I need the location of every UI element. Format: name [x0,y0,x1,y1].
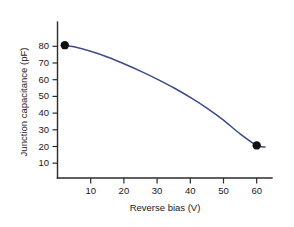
y-axis-title: Junction capacitance (pF) [18,48,29,157]
x-tick-label-60: 60 [251,185,262,196]
x-axis-tick-labels: 10 20 30 40 50 60 [85,185,262,196]
y-tick-label-10: 10 [38,157,49,168]
y-tick-label-80: 80 [38,40,49,51]
y-tick-label-20: 20 [38,141,49,152]
chart-axes [58,22,273,178]
x-axis-ticks [91,178,257,184]
x-tick-label-10: 10 [85,185,96,196]
data-series-line [65,45,265,147]
x-tick-label-50: 50 [218,185,229,196]
chart-plot-svg: 80 70 60 50 40 30 20 10 10 20 30 40 50 6… [0,0,294,227]
y-tick-label-40: 40 [38,107,49,118]
x-axis-title: Reverse bias (V) [130,202,201,213]
y-tick-label-60: 60 [38,74,49,85]
data-point-marker-right [253,141,261,149]
x-tick-label-30: 30 [152,185,163,196]
x-tick-label-40: 40 [185,185,196,196]
x-tick-label-20: 20 [119,185,130,196]
chart-figure: 80 70 60 50 40 30 20 10 10 20 30 40 50 6… [0,0,294,227]
y-tick-label-50: 50 [38,90,49,101]
y-tick-label-30: 30 [38,124,49,135]
data-point-marker-left [61,41,69,49]
y-tick-label-70: 70 [38,57,49,68]
y-axis-tick-labels: 80 70 60 50 40 30 20 10 [38,40,49,168]
y-axis-ticks [53,46,58,163]
